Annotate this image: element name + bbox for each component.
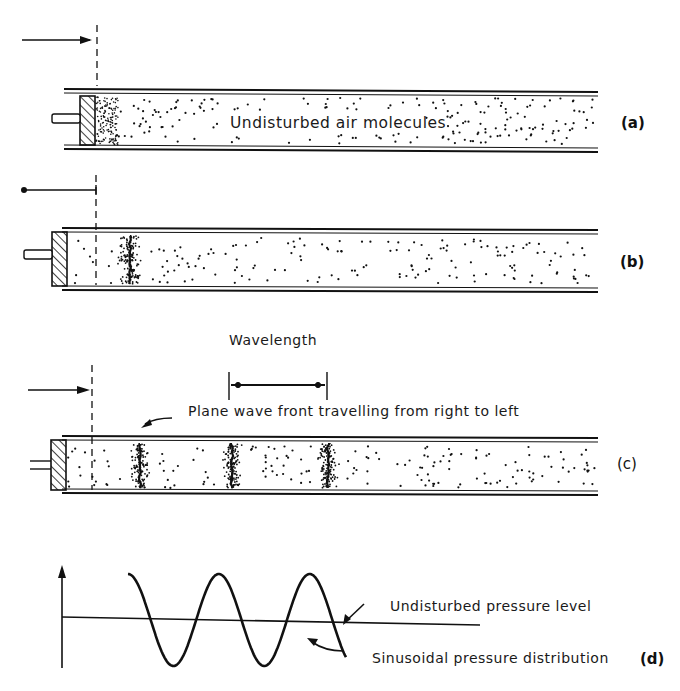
panel-c-label: (c) xyxy=(617,455,637,473)
piston-motion-arrow-right-icon xyxy=(22,36,92,44)
undisturbed-pressure-label: Undisturbed pressure level xyxy=(390,598,591,614)
molecules-b xyxy=(74,237,590,284)
panel-a-label: (a) xyxy=(621,114,645,132)
molecules-dense-a xyxy=(95,96,119,145)
panel-c xyxy=(28,365,598,495)
piston-rod-icon xyxy=(30,461,51,469)
panel-b-label: (b) xyxy=(620,253,644,271)
piston-motion-arrow-right-icon xyxy=(28,386,90,394)
panel-c-caption: Plane wave front travelling from right t… xyxy=(188,403,519,419)
piston-icon xyxy=(80,96,95,145)
tube-walls xyxy=(62,228,598,292)
sound-wave-tube-diagram xyxy=(0,0,680,691)
piston-icon xyxy=(51,440,66,490)
panel-d-label: (d) xyxy=(640,650,664,668)
piston-icon xyxy=(52,232,67,286)
piston-rod-icon xyxy=(24,250,52,259)
panel-a-caption: Undisturbed air molecules xyxy=(230,114,446,132)
wavelength-bracket-icon xyxy=(229,372,327,400)
sinusoidal-pressure-label: Sinusoidal pressure distribution xyxy=(372,650,609,666)
wavelength-label: Wavelength xyxy=(229,332,317,348)
compression-fronts xyxy=(130,443,339,488)
panel-a xyxy=(22,25,598,152)
compression-front xyxy=(117,235,141,284)
wave-front-pointer-arrow-icon xyxy=(141,418,172,428)
piston-rod-icon xyxy=(52,114,80,123)
piston-motion-arrow-left-icon xyxy=(21,185,96,195)
undisturbed-pressure-baseline xyxy=(62,617,480,625)
panel-b xyxy=(21,175,598,292)
